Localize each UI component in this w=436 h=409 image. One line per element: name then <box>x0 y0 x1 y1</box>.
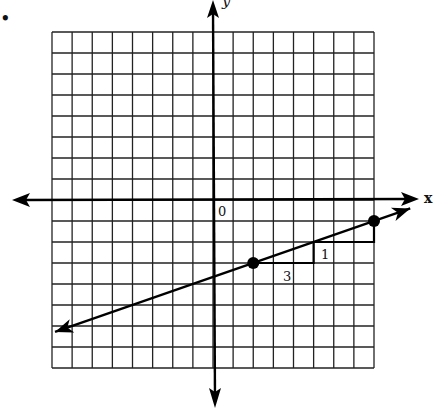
y-axis-label: y <box>221 0 231 10</box>
bullet-marker: • <box>0 8 11 29</box>
run-label: 3 <box>283 269 291 284</box>
data-point <box>368 215 380 227</box>
coordinate-plane-chart: • y x 0 1 3 <box>0 0 436 409</box>
data-point <box>247 257 259 269</box>
x-axis-label: x <box>424 190 433 206</box>
origin-label: 0 <box>218 204 226 219</box>
rise-label: 1 <box>321 247 329 262</box>
